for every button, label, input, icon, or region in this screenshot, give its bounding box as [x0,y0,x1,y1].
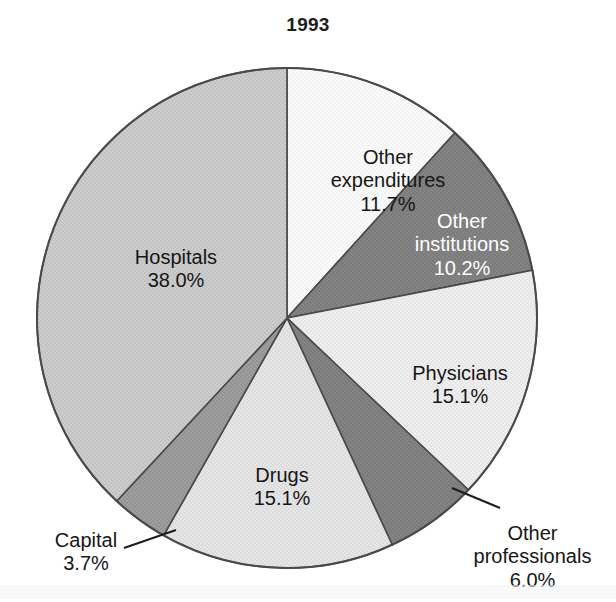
slice-label-physicians: Physicians 15.1% [385,338,535,432]
slice-label-hospitals: Hospitals 38.0% [96,222,256,316]
slice-label-value: 15.1% [212,487,352,511]
slice-label-name: Drugs [255,464,308,486]
slice-label-value: 15.1% [385,385,535,409]
scan-artifact-strip [0,585,616,599]
slice-label-value: 38.0% [96,269,256,293]
pie-chart-figure: 1993 [0,0,616,602]
slice-label-other-institutions: Other institutions 10.2% [392,186,532,304]
slice-label-value: 3.7% [16,552,156,576]
slice-label-drugs: Drugs 15.1% [212,440,352,534]
slice-label-name: Other expenditures [331,146,446,192]
slice-label-name: Other professionals [474,522,592,568]
slice-label-name: Other institutions [415,210,510,256]
slice-label-name: Physicians [412,362,508,384]
slice-label-name: Hospitals [135,246,217,268]
slice-label-name: Capital [55,529,117,551]
slice-label-value: 10.2% [392,257,532,281]
